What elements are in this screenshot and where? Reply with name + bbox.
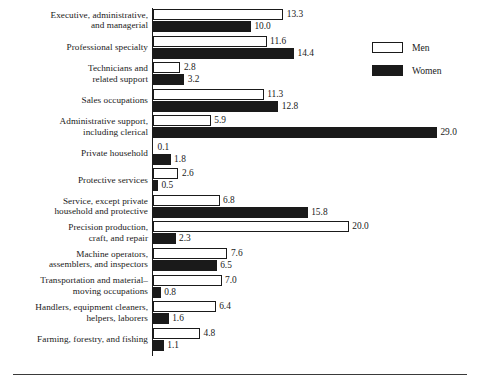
bar-value-label: 6.4 <box>219 301 231 312</box>
category-label-line: assemblers, and inspectors <box>8 259 148 270</box>
category-label-line: Technicians and <box>8 63 148 74</box>
bar-value-label: 20.0 <box>352 221 368 232</box>
bar-value-label: 10.0 <box>254 21 270 32</box>
bar-value-label: 0.8 <box>164 287 176 298</box>
category-label: Sales occupations <box>8 95 148 106</box>
category-label: Protective services <box>8 175 148 186</box>
bar-women <box>153 180 158 191</box>
category-label-line: helpers, laborers <box>8 313 148 324</box>
category-label: Transportation and material–moving occup… <box>8 275 148 296</box>
bar-value-label: 2.6 <box>182 168 194 179</box>
bar-men <box>153 89 264 100</box>
bar-men <box>153 195 220 206</box>
category-label: Professional specialty <box>8 42 148 53</box>
bar-value-label: 2.8 <box>184 62 196 73</box>
category-label-line: Transportation and material– <box>8 275 148 286</box>
category-label-line: Handlers, equipment cleaners, <box>8 302 148 313</box>
legend-item-women: Women <box>372 64 478 77</box>
bar-value-label: 29.0 <box>440 127 456 138</box>
bar-men <box>153 62 180 73</box>
bar-women <box>153 21 251 32</box>
category-label: Machine operators,assemblers, and inspec… <box>8 249 148 270</box>
bar-value-label: 4.8 <box>203 328 215 339</box>
bar-men <box>153 9 283 20</box>
category-label-line: Sales occupations <box>8 95 148 106</box>
category-label: Private household <box>8 148 148 159</box>
category-label-line: moving occupations <box>8 286 148 297</box>
legend-swatch-men-icon <box>372 42 403 53</box>
bar-men <box>153 168 178 179</box>
bar-women <box>153 154 171 165</box>
chart-figure: Executive, administrative,and managerial… <box>0 0 480 389</box>
footer-rule <box>13 374 467 375</box>
bar-value-label: 5.9 <box>214 115 226 126</box>
category-label: Technicians andrelated support <box>8 63 148 84</box>
bar-women <box>153 260 217 271</box>
category-label-line: craft, and repair <box>8 233 148 244</box>
category-label-line: Precision production, <box>8 222 148 233</box>
category-label: Handlers, equipment cleaners,helpers, la… <box>8 302 148 323</box>
bar-men <box>153 275 222 286</box>
bar-value-label: 12.8 <box>282 101 298 112</box>
bar-women <box>153 340 164 351</box>
bar-men <box>153 328 200 339</box>
category-label-line: Protective services <box>8 175 148 186</box>
category-label: Administrative support,including clerica… <box>8 116 148 137</box>
bar-value-label: 13.3 <box>287 9 303 20</box>
bar-value-label: 0.5 <box>161 180 173 191</box>
category-label-line: Executive, administrative, <box>8 10 148 21</box>
bar-value-label: 11.6 <box>270 36 286 47</box>
legend-swatch-women-icon <box>372 65 403 76</box>
bar-women <box>153 207 308 218</box>
bar-men <box>153 221 349 232</box>
bar-men <box>153 115 211 126</box>
bar-value-label: 0.1 <box>157 142 169 153</box>
bar-women <box>153 127 437 138</box>
category-label-line: and managerial <box>8 20 148 31</box>
category-label: Service, except privatehousehold and pro… <box>8 196 148 217</box>
category-label-line: related support <box>8 74 148 85</box>
bar-men <box>153 36 267 47</box>
legend-label-women: Women <box>412 65 442 76</box>
bar-value-label: 11.3 <box>267 89 283 100</box>
bar-men <box>153 301 216 312</box>
bar-men <box>153 248 227 259</box>
bar-value-label: 1.6 <box>172 313 184 324</box>
chart-legend: Men Women <box>372 41 478 77</box>
category-label-line: Service, except private <box>8 196 148 207</box>
bar-women <box>153 101 278 112</box>
bar-value-label: 7.6 <box>231 248 243 259</box>
bar-value-label: 6.5 <box>220 260 232 271</box>
category-label-line: Professional specialty <box>8 42 148 53</box>
bar-value-label: 7.0 <box>225 275 237 286</box>
bar-value-label: 1.8 <box>174 154 186 165</box>
bar-value-label: 2.3 <box>179 233 191 244</box>
legend-label-men: Men <box>412 42 430 53</box>
bar-women <box>153 313 169 324</box>
bar-value-label: 6.8 <box>223 195 235 206</box>
category-label: Executive, administrative,and managerial <box>8 10 148 31</box>
category-label-line: including clerical <box>8 127 148 138</box>
category-label: Precision production,craft, and repair <box>8 222 148 243</box>
bar-men <box>153 142 154 153</box>
bar-women <box>153 287 161 298</box>
legend-item-men: Men <box>372 41 478 54</box>
category-label: Farming, forestry, and fishing <box>8 334 148 345</box>
category-label-line: Private household <box>8 148 148 159</box>
bar-women <box>153 74 184 85</box>
category-label-line: household and protective <box>8 206 148 217</box>
bar-value-label: 15.8 <box>311 207 327 218</box>
bar-women <box>153 48 294 59</box>
bar-women <box>153 233 176 244</box>
category-label-line: Administrative support, <box>8 116 148 127</box>
category-label-line: Farming, forestry, and fishing <box>8 334 148 345</box>
bar-value-label: 14.4 <box>297 48 313 59</box>
category-label-line: Machine operators, <box>8 249 148 260</box>
bar-value-label: 3.2 <box>188 74 200 85</box>
bar-value-label: 1.1 <box>167 340 179 351</box>
